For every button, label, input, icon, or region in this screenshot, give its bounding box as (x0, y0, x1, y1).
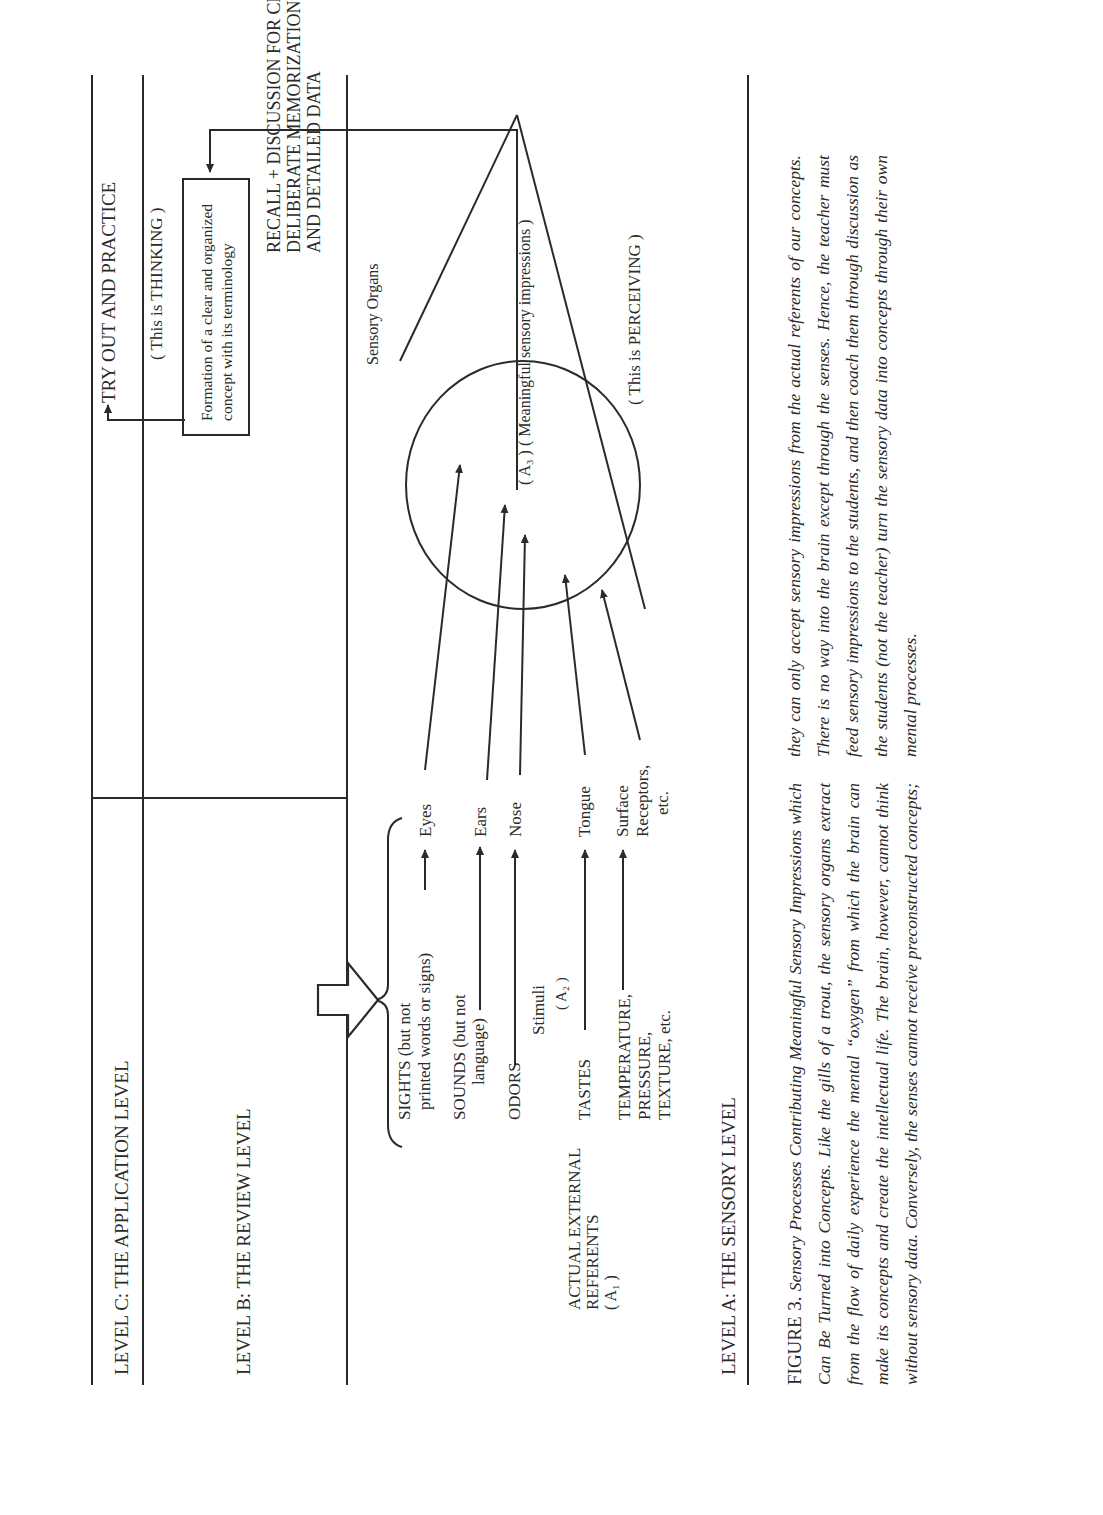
sensory-levels-diagram: LEVEL C: THE APPLICATION LEVEL LEVEL B: … (0, 0, 1103, 1515)
review-line-1: RECALL + DISCUSSION FOR CLARIFICATION + (264, 0, 284, 253)
rotated-page: LEVEL C: THE APPLICATION LEVEL LEVEL B: … (0, 0, 1103, 1515)
try-out-arrow (108, 405, 185, 420)
review-line-2: DELIBERATE MEMORIZATION OF SYMBOLS (284, 0, 304, 253)
organ-surface-line-3: etc. (653, 791, 672, 815)
level-b-label: LEVEL B: THE REVIEW LEVEL (233, 1108, 254, 1375)
review-line-3: AND DETAILED DATA (304, 71, 324, 253)
concept-formation-box (183, 179, 249, 435)
stimulus-sounds-line-2: language) (469, 1018, 488, 1085)
stimulus-temperature-line-3: TEXTURE, etc. (655, 1010, 674, 1120)
stimulus-sights-line-2: printed words or signs) (415, 953, 434, 1110)
stimulus-tastes: TASTES (575, 1059, 594, 1120)
thinking-label: ( This is THINKING ) (147, 208, 166, 360)
stimulus-odors: ODORS (505, 1062, 524, 1120)
level-c-label: LEVEL C: THE APPLICATION LEVEL (111, 1060, 132, 1375)
sensory-organs-label: Sensory Organs (364, 264, 382, 365)
organ-arrows (425, 465, 640, 780)
referents-hollow-arrow (300, 1033, 335, 1057)
level-a-label: LEVEL A: THE SENSORY LEVEL (718, 1097, 739, 1375)
stimulus-temperature-line-1: TEMPERATURE, (615, 994, 634, 1120)
organ-surface-line-2: Receptors, (633, 765, 652, 837)
brace-main (395, 1130, 410, 1145)
stimuli-list: SIGHTS (but not printed words or signs) … (395, 953, 674, 1120)
organ-nose: Nose (506, 802, 525, 837)
try-out-label: TRY OUT AND PRACTICE (98, 182, 119, 403)
perceiving-label: ( This is PERCEIVING ) (625, 234, 644, 405)
referents-line-3: ( A₁ ) (602, 1275, 620, 1310)
formation-line-1: Formation of a clear and organized (198, 204, 215, 421)
stimulus-sounds-line-1: SOUNDS (but not (450, 994, 469, 1120)
referents-line-2: REFERENTS (583, 1215, 602, 1310)
organ-eyes: Eyes (416, 804, 435, 837)
stimuli-label: Stimuli (529, 985, 548, 1035)
formation-line-2: concept with its terminology (218, 243, 235, 421)
referents-line-1: ACTUAL EXTERNAL (565, 1148, 584, 1310)
organ-ears: Ears (471, 807, 490, 837)
figure-label: FIGURE 3. (784, 1297, 805, 1385)
organ-surface-line-1: Surface (613, 785, 632, 837)
organ-tongue: Tongue (575, 786, 594, 837)
referents-arrow (318, 963, 378, 1037)
stimulus-sights-line-1: SIGHTS (but not (395, 1003, 414, 1120)
meaningful-impressions: ( A₃ ) ( Meaningful sensory impressions … (516, 219, 534, 485)
stimulus-temperature-line-2: PRESSURE, (635, 1032, 654, 1120)
stimuli-sublabel: ( A₂ ) (553, 977, 570, 1010)
level-frame (92, 75, 748, 1385)
organ-list: Eyes Ears Nose Tongue Surface Receptors,… (416, 765, 672, 837)
figure-caption: FIGURE 3. Sensory Processes Contributing… (780, 155, 926, 1385)
